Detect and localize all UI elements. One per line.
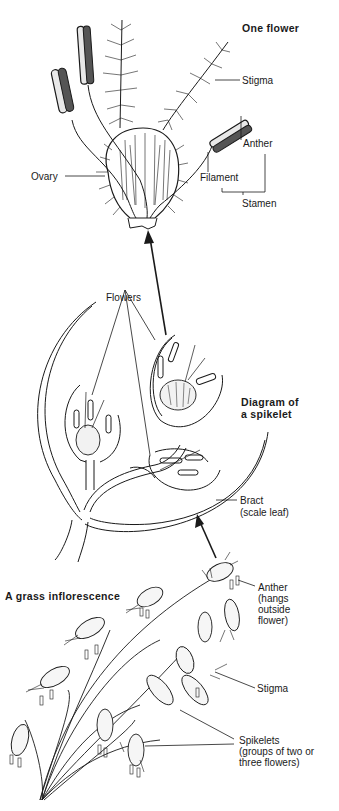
spikelet-title-line1: Diagram of <box>241 396 299 408</box>
spikelets-label-line2: (groups of two or <box>239 746 314 757</box>
inflorescence-title: A grass inflorescence <box>5 590 120 602</box>
arrow-spikelet-to-flower <box>144 230 166 335</box>
one-flower-title: One flower <box>242 22 299 34</box>
spikelets-label-line3: three flowers) <box>239 757 300 768</box>
stamen-label: Stamen <box>242 198 276 209</box>
inflorescence-stigma-label: Stigma <box>257 683 288 694</box>
inflorescence-anther-line4: flower) <box>258 615 288 626</box>
filament-label: Filament <box>200 172 238 183</box>
inflorescence-anther-line2: (hangs <box>258 593 289 604</box>
stigma-label: Stigma <box>242 75 273 86</box>
flowers-label: Flowers <box>106 292 141 303</box>
spikelet-title-line2: a spikelet <box>241 408 292 420</box>
arrow-inflorescence-to-spikelet <box>195 514 216 558</box>
spikelets-label-line1: Spikelets <box>239 735 280 746</box>
spikelet-illustration <box>38 290 268 562</box>
inflorescence-anther-line3: outside <box>258 604 290 615</box>
bract-label-line2: (scale leaf) <box>240 507 289 518</box>
inflorescence-anther-line1: Anther <box>258 582 287 593</box>
one-flower-illustration <box>51 20 265 229</box>
ovary-label: Ovary <box>31 171 58 182</box>
bract-label-line1: Bract <box>240 495 263 506</box>
anther-label: Anther <box>243 138 272 149</box>
